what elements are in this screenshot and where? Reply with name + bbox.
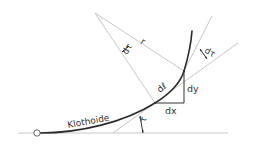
arc-element-label: dℓ bbox=[155, 81, 169, 95]
klothoide-diagram: r dτ dτ dℓ dy dx Klothoide τ bbox=[0, 0, 253, 152]
point-Q bbox=[183, 70, 185, 72]
radius-label: r bbox=[139, 36, 148, 47]
clothoid-curve-upper bbox=[184, 31, 192, 71]
tangent-line-at-P bbox=[113, 43, 238, 133]
dx-label: dx bbox=[165, 105, 177, 116]
start-point-circle bbox=[34, 130, 40, 136]
radius-line-to-P bbox=[95, 13, 155, 103]
point-P bbox=[154, 102, 156, 104]
tangent-line-at-Q bbox=[184, 16, 212, 71]
tau-label: τ bbox=[137, 115, 148, 124]
dy-label: dy bbox=[187, 83, 199, 94]
